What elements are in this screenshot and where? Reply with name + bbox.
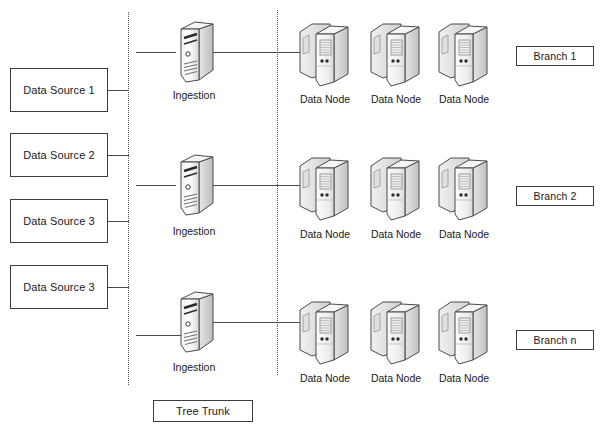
ingestion-label-1: Ingestion [173,89,216,101]
ingestion-label-3: Ingestion [173,361,216,373]
branch-label-box-1[interactable]: Branch 1 [516,46,594,66]
connector-source-4-to-trunk [108,287,129,288]
tree-trunk-label-box[interactable]: Tree Trunk [153,400,253,422]
data-node-icon-2-3[interactable] [435,152,493,224]
ingestion-server-icon-3[interactable] [172,290,216,356]
data-node-icon-1-2[interactable] [367,18,425,90]
data-source-label: Data Source 3 [23,281,95,293]
data-node-label-1-3: Data Node [439,93,489,105]
branch-label-box-2[interactable]: Branch 2 [516,186,594,206]
data-node-icon-3-3[interactable] [435,296,493,368]
data-node-icon-2-1[interactable] [296,152,354,224]
data-node-label-2-3: Data Node [439,228,489,240]
branch-label: Branch 1 [534,50,577,62]
branch-label: Branch 2 [534,190,577,202]
data-node-label-3-2: Data Node [371,372,421,384]
data-source-box-1[interactable]: Data Source 1 [10,68,108,112]
branch-label: Branch n [534,334,577,346]
connector-source-2-to-trunk [108,155,129,156]
branch-label-box-3[interactable]: Branch n [516,330,594,350]
data-node-icon-1-1[interactable] [296,18,354,90]
ingestion-server-icon-1[interactable] [172,20,216,86]
data-node-label-2-1: Data Node [300,228,350,240]
connector-trunk-to-ingestion-1 [136,52,176,53]
data-source-box-4[interactable]: Data Source 3 [10,265,108,309]
data-node-icon-1-3[interactable] [435,18,493,90]
architecture-diagram: Data Source 1 Data Source 2 Data Source … [0,0,605,441]
data-source-label: Data Source 3 [23,215,95,227]
data-node-label-1-2: Data Node [371,93,421,105]
ingestion-server-icon-2[interactable] [172,153,216,219]
data-source-label: Data Source 2 [23,149,95,161]
data-source-box-3[interactable]: Data Source 3 [10,199,108,243]
connector-source-1-to-trunk [108,90,129,91]
connector-source-3-to-trunk [108,221,129,222]
data-node-icon-3-1[interactable] [296,296,354,368]
trunk-boundary-line-right [277,10,278,375]
connector-trunk-to-ingestion-2 [136,185,176,186]
data-source-label: Data Source 1 [23,84,95,96]
ingestion-label-2: Ingestion [173,225,216,237]
trunk-boundary-line-left [128,12,129,385]
data-source-box-2[interactable]: Data Source 2 [10,133,108,177]
data-node-label-2-2: Data Node [371,228,421,240]
tree-trunk-label: Tree Trunk [176,405,230,417]
connector-ingestion-2-to-branch-bus [213,185,305,186]
data-node-icon-2-2[interactable] [367,152,425,224]
data-node-icon-3-2[interactable] [367,296,425,368]
connector-ingestion-1-to-branch-bus [213,52,305,53]
data-node-label-3-1: Data Node [300,372,350,384]
data-node-label-3-3: Data Node [439,372,489,384]
data-node-label-1-1: Data Node [300,93,350,105]
connector-ingestion-3-to-branch-bus [213,322,305,323]
